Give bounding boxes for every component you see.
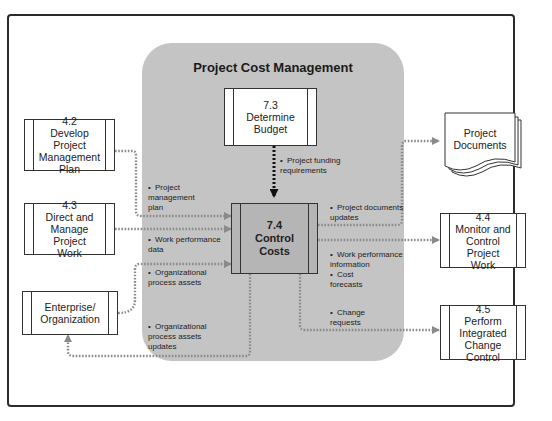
process-direct-manage-work[interactable]: 4.3 Direct and Manage Project Work [24,203,115,255]
process-determine-budget[interactable]: 7.3 Determine Budget [224,88,317,146]
process-control-costs[interactable]: 7.4 Control Costs [231,203,318,274]
label-work-perf-data: •Work performance data [148,235,221,255]
process-enterprise-organization[interactable]: Enterprise/ Organization [22,291,118,335]
label-work-perf-info: •Work performance information [330,250,403,270]
project-documents[interactable]: Project Documents [444,113,520,171]
process-develop-pm-plan[interactable]: 4.2 Develop Project Management Plan [24,119,115,171]
label-change-requests: •Change requests [330,308,365,328]
process-monitor-control-work[interactable]: 4.4 Monitor and Control Project Work [440,213,526,268]
label-doc-updates: •Project documents updates [330,203,403,223]
label-pm-plan: •Project management plan [148,183,195,213]
arrow-change-requests [300,274,439,330]
label-funding-requirements: •Project funding requirements [280,156,340,176]
process-integrated-change-control[interactable]: 4.5 Perform Integrated Change Control [440,305,526,360]
label-opa: •Organizational process assets [148,268,207,288]
label-opa-updates: •Organizational process assets updates [148,322,207,352]
label-cost-forecasts: •Cost forecasts [330,270,362,290]
